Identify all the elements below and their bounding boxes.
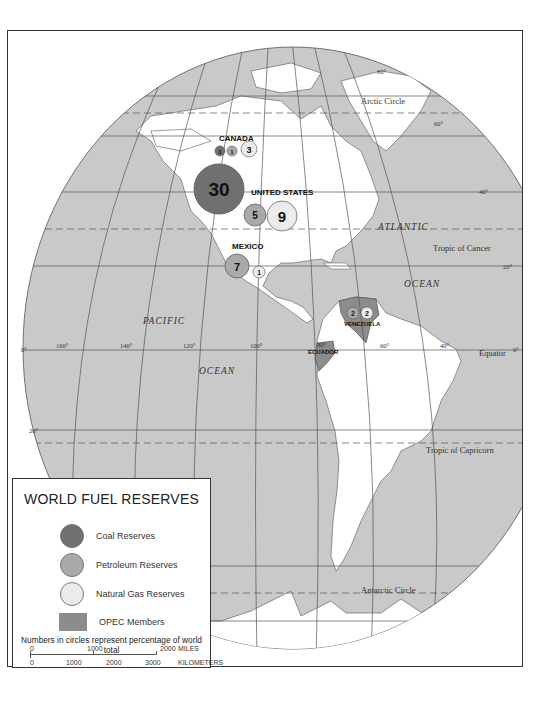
pacific-ocean-label: OCEAN [199, 366, 235, 376]
venezuela-label: VENEZUELA [344, 321, 381, 327]
svg-text:5: 5 [252, 210, 258, 221]
legend-title: WORLD FUEL RESERVES [13, 491, 210, 507]
legend-opec: OPEC Members [59, 613, 165, 631]
opec-swatch-icon [59, 613, 87, 631]
svg-text:7: 7 [234, 261, 240, 273]
legend-box: WORLD FUEL RESERVES Coal Reserves Petrol… [12, 478, 211, 668]
svg-text:0°: 0° [21, 346, 27, 353]
mexico-label: MEXICO [232, 242, 264, 251]
ecuador-label: ECUADOR [308, 349, 339, 355]
svg-text:30: 30 [208, 179, 229, 200]
tropic-cancer-label: Tropic of Cancer [433, 243, 491, 253]
atlantic-label: ATLANTIC [377, 222, 429, 232]
legend-petroleum: Petroleum Reserves [60, 553, 178, 577]
svg-text:60°: 60° [434, 120, 444, 127]
svg-text:80°: 80° [377, 68, 387, 75]
svg-text:20°: 20° [29, 427, 39, 434]
arctic-circle-label: Arctic Circle [361, 96, 405, 106]
canada-label: CANADA [219, 134, 254, 143]
svg-text:2: 2 [351, 310, 355, 317]
svg-text:100°: 100° [250, 342, 263, 349]
tropic-capricorn-label: Tropic of Capricorn [426, 445, 494, 455]
united-states-label: UNITED STATES [251, 188, 314, 197]
petroleum-swatch-icon [60, 553, 84, 577]
svg-text:20°: 20° [503, 263, 513, 270]
pacific-label: PACIFIC [142, 316, 185, 326]
svg-text:140°: 140° [120, 342, 133, 349]
svg-text:0°: 0° [513, 346, 519, 353]
equator-label: Equator [479, 348, 506, 358]
legend-natural-gas: Natural Gas Reserves [60, 582, 185, 606]
svg-text:2: 2 [365, 310, 369, 317]
svg-text:80°: 80° [317, 341, 327, 348]
svg-text:9: 9 [278, 208, 286, 225]
svg-text:1: 1 [257, 269, 261, 276]
coal-swatch-icon [60, 524, 84, 548]
natural-gas-swatch-icon [60, 582, 84, 606]
scale-bar: 0 1000 2000 MILES 0 1000 2000 3000 KILOM… [30, 645, 208, 667]
antarctic-circle-label: Antarctic Circle [361, 585, 416, 595]
svg-text:40°: 40° [440, 342, 450, 349]
atlantic-ocean-label: OCEAN [404, 279, 440, 289]
legend-coal: Coal Reserves [60, 524, 155, 548]
svg-text:40°: 40° [479, 188, 489, 195]
svg-text:160°: 160° [56, 342, 69, 349]
svg-text:60°: 60° [380, 342, 390, 349]
svg-text:3: 3 [246, 145, 251, 155]
svg-text:120°: 120° [183, 342, 196, 349]
